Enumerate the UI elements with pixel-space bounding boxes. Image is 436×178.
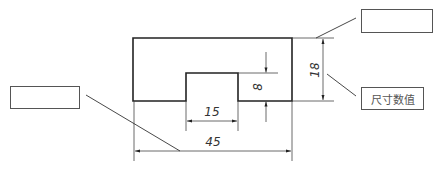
dim-text-15: 15 xyxy=(204,105,219,119)
label-box-left xyxy=(10,86,80,109)
label-box-top-right xyxy=(361,9,433,33)
leader-left xyxy=(86,95,180,151)
leader-middle-right xyxy=(327,74,356,96)
part-outline xyxy=(133,38,292,101)
label-box-dimension-value: 尺寸数值 xyxy=(361,87,424,110)
dim-text-45: 45 xyxy=(205,135,220,149)
dim-text-8: 8 xyxy=(251,83,265,91)
label-dimension-value-text: 尺寸数值 xyxy=(371,91,415,107)
dim-text-18: 18 xyxy=(308,62,322,78)
leader-top-right xyxy=(316,18,356,38)
